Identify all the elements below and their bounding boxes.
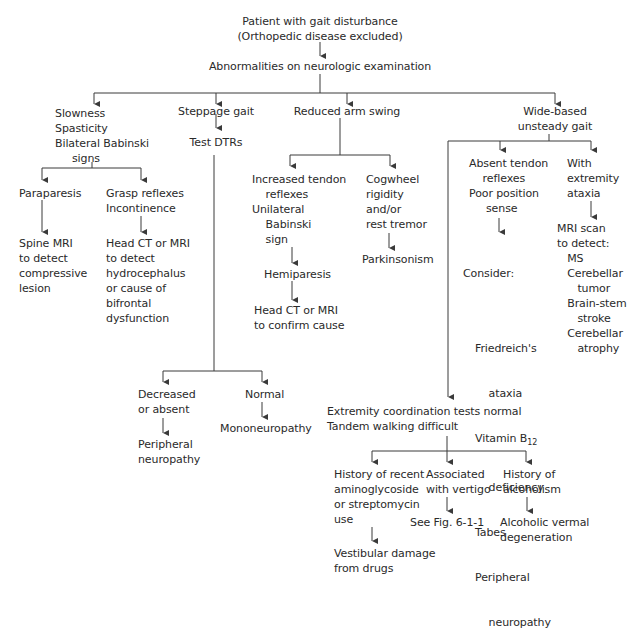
consider-item: ataxia	[475, 386, 551, 401]
node-head-ct-confirm: Head CT or MRI to confirm cause	[254, 303, 344, 333]
node-parkinsonism: Parkinsonism	[362, 252, 434, 267]
node-grasp-reflexes: Grasp reflexes Incontinence	[106, 186, 184, 216]
node-reduced-arm-swing: Reduced arm swing	[290, 104, 404, 119]
node-see-fig-link[interactable]: See Fig. 6-1-1	[410, 515, 484, 530]
node-normal: Normal	[245, 387, 284, 402]
node-abnormalities: Abnormalities on neurologic examination	[200, 59, 440, 74]
node-decreased-absent: Decreased or absent	[138, 387, 196, 417]
node-head-ct-hydrocephalus: Head CT or MRI to detect hydrocephalus o…	[106, 236, 190, 326]
node-consider: Consider: Friedreich's ataxia Vitamin B1…	[463, 236, 551, 632]
node-absent-tendon-reflexes: Absent tendon reflexes Poor position sen…	[469, 156, 548, 216]
node-root: Patient with gait disturbance (Orthopedi…	[220, 14, 420, 44]
consider-item: Friedreich's	[475, 341, 551, 356]
node-spine-mri: Spine MRI to detect compressive lesion	[19, 236, 87, 296]
node-paraparesis: Paraparesis	[19, 186, 81, 201]
node-extremity-ataxia: With extremity ataxia	[567, 156, 619, 201]
node-peripheral-neuropathy: Peripheral neuropathy	[138, 437, 200, 467]
node-associated-vertigo: Associated with vertigo	[426, 467, 491, 497]
node-alcoholism-history: History of alcoholism	[503, 467, 561, 497]
node-slowness-spasticity: Slowness Spasticity Bilateral Babinski s…	[55, 106, 149, 166]
node-cogwheel-rigidity: Cogwheel rigidity and/or rest tremor	[366, 172, 427, 232]
vitamin-subscript: 12	[527, 438, 537, 447]
node-wide-based-gait: Wide-based unsteady gait	[510, 104, 600, 134]
node-test-dtrs: Test DTRs	[180, 135, 252, 150]
consider-item: Peripheral	[475, 570, 551, 585]
node-increased-tendon-reflexes: Increased tendon reflexes Unilateral Bab…	[252, 172, 346, 247]
node-coordination-normal: Extremity coordination tests normal Tand…	[327, 404, 521, 434]
node-mononeuropathy: Mononeuropathy	[220, 421, 312, 436]
consider-item: neuropathy	[475, 615, 551, 630]
consider-title: Consider:	[463, 266, 551, 281]
node-vestibular-damage: Vestibular damage from drugs	[334, 546, 436, 576]
node-alcoholic-vermal-degeneration: Alcoholic vermal degeneration	[500, 515, 589, 545]
node-hemiparesis: Hemiparesis	[264, 267, 331, 282]
node-steppage-gait: Steppage gait	[170, 104, 262, 119]
node-mri-scan: MRI scan to detect: MS Cerebellar tumor …	[557, 221, 627, 356]
